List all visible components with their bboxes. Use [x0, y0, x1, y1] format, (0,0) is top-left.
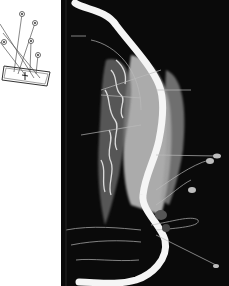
orientation-inset-diagram [0, 0, 60, 90]
mri-image-panel [61, 0, 229, 286]
inset-schematic-icon [0, 0, 60, 90]
mri-scan-image [61, 0, 229, 286]
